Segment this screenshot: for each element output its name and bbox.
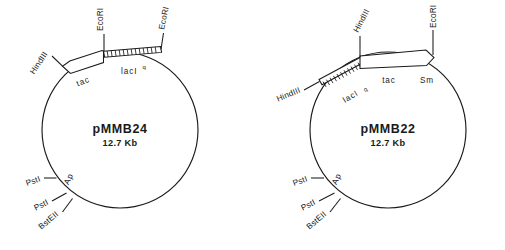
label-sm: Sm: [420, 76, 434, 85]
label-hindiii-1: HindIII: [352, 8, 372, 34]
label-tac: tac: [382, 76, 396, 85]
plasmid-panel-pMMB24: HindIII EcoRI EcoRI PstI PstI BstEII tac…: [0, 0, 252, 250]
label-ecori-1: EcoRI: [96, 8, 105, 31]
tick-bsteii: [330, 199, 341, 213]
label-psti-1: PstI: [292, 174, 309, 188]
label-laci: lacI: [341, 89, 360, 105]
laciq-hatched-segment: [319, 58, 363, 87]
tick-hindiii-2: [304, 82, 320, 91]
plasmid-name: pMMB22: [361, 122, 416, 136]
tick-psti-2: [319, 193, 335, 201]
label-psti-2: PstI: [300, 198, 317, 213]
label-tac: tac: [75, 75, 91, 88]
label-hindiii: HindIII: [28, 50, 49, 76]
plasmid-name: pMMB24: [93, 122, 148, 136]
pMMB22-svg: HindIII HindIII EcoRI PstI PstI BstEII l…: [253, 0, 505, 250]
label-ecori: EcoRI: [429, 5, 438, 28]
tac-promoter-arrow: [63, 51, 104, 74]
plasmid-panel-pMMB22: HindIII HindIII EcoRI PstI PstI BstEII l…: [253, 0, 505, 250]
tick-bsteii: [63, 199, 73, 213]
label-bsteii: BstEII: [37, 210, 60, 232]
label-ap: Ap: [62, 172, 75, 187]
plasmid-size: 12.7 Kb: [371, 138, 406, 148]
tick-psti-2: [52, 193, 67, 201]
label-laciq: lacI q: [341, 86, 368, 105]
laciq-hatched-segment: [104, 47, 162, 58]
tac-promoter-arrow: [360, 50, 434, 69]
pMMB24-svg: HindIII EcoRI EcoRI PstI PstI BstEII tac…: [0, 0, 252, 250]
label-hindiii-2: HindIII: [275, 86, 302, 104]
label-bsteii: BstEII: [305, 210, 328, 232]
label-psti-1: PstI: [25, 174, 42, 188]
tick-hindiii: [52, 56, 63, 66]
label-laci-superscript: q: [143, 64, 146, 70]
label-laci: lacI: [121, 67, 137, 76]
label-laciq: lacI q: [121, 64, 146, 76]
plasmid-size: 12.7 Kb: [103, 138, 138, 148]
plasmid-map-figure: HindIII EcoRI EcoRI PstI PstI BstEII tac…: [0, 0, 505, 250]
label-ecori-2: EcoRI: [157, 6, 171, 31]
label-ap: Ap: [330, 172, 343, 187]
tick-ecori-2: [161, 33, 164, 50]
label-laci-superscript: q: [362, 86, 368, 93]
label-psti-2: PstI: [33, 198, 50, 213]
